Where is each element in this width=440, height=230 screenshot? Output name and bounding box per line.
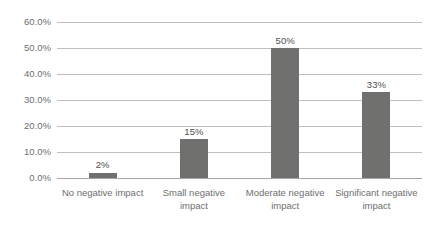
x-axis-label-significant-negative-impact: Significant negative impact xyxy=(331,186,422,212)
x-axis-label-line: impact xyxy=(242,199,329,212)
bar-no-negative-impact[interactable] xyxy=(89,173,117,178)
bar-value-label-2: 15% xyxy=(148,127,239,137)
y-axis-tick-50: 50.0% xyxy=(3,43,51,53)
x-axis-label-moderate-negative-impact: Moderate negative impact xyxy=(240,186,331,212)
bar-slot-moderate-negative-impact: 50% xyxy=(240,22,331,178)
bar-value-label-4: 33% xyxy=(331,80,422,90)
y-axis-tick-30: 30.0% xyxy=(3,95,51,105)
x-axis-label-line: Small negative impact xyxy=(150,186,237,212)
x-axis-label-small-negative-impact: Small negative impact xyxy=(148,186,239,212)
x-axis-labels: No negative impact Small negative impact… xyxy=(57,186,422,212)
bar-slot-significant-negative-impact: 33% xyxy=(331,22,422,178)
bar-slot-no-negative-impact: 2% xyxy=(57,22,148,178)
y-axis-tick-40: 40.0% xyxy=(3,69,51,79)
x-axis-label-line: Moderate negative xyxy=(242,186,329,199)
y-axis-tick-60: 60.0% xyxy=(3,17,51,27)
bar-value-label-3: 50% xyxy=(240,36,331,46)
x-axis-label-line: No negative impact xyxy=(59,186,146,199)
x-axis-label-line: Significant negative xyxy=(333,186,420,199)
axis-baseline xyxy=(57,178,422,179)
y-axis-tick-0: 0.0% xyxy=(3,173,51,183)
bar-chart: 60.0% 50.0% 40.0% 30.0% 20.0% 10.0% 0.0%… xyxy=(0,0,440,230)
bar-value-label-1: 2% xyxy=(57,160,148,170)
x-axis-label-no-negative-impact: No negative impact xyxy=(57,186,148,212)
y-axis-tick-20: 20.0% xyxy=(3,121,51,131)
bar-significant-negative-impact[interactable] xyxy=(362,92,390,178)
bar-small-negative-impact[interactable] xyxy=(180,139,208,178)
y-axis-tick-10: 10.0% xyxy=(3,147,51,157)
bar-slot-small-negative-impact: 15% xyxy=(148,22,239,178)
bar-series: 2% 15% 50% 33% xyxy=(57,22,422,178)
x-axis-label-line: impact xyxy=(333,199,420,212)
bar-moderate-negative-impact[interactable] xyxy=(271,48,299,178)
